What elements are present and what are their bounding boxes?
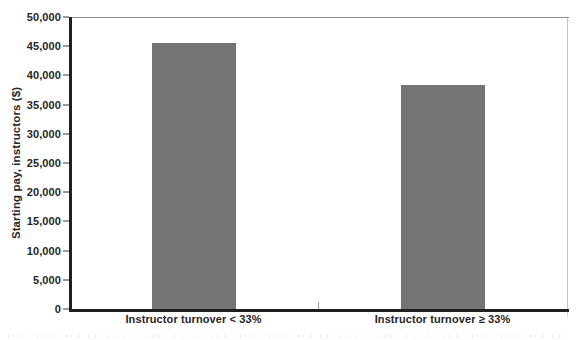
y-tick-label: 15,000 (0, 214, 61, 228)
y-tick (63, 16, 69, 18)
y-tick (63, 162, 69, 164)
y-tick (63, 308, 69, 310)
y-tick (63, 74, 69, 76)
x-category-label-1: Instructor turnover < 33% (125, 313, 261, 325)
plot-frame-top-line (69, 17, 569, 18)
x-axis-line (69, 309, 569, 312)
y-tick (63, 220, 69, 222)
y-tick-label: 30,000 (0, 127, 61, 141)
y-tick-label: 10,000 (0, 244, 61, 258)
y-tick (63, 191, 69, 193)
y-tick (63, 104, 69, 106)
bar-2 (401, 85, 485, 309)
bar-1 (152, 43, 236, 309)
y-tick-label: 40,000 (0, 68, 61, 82)
y-tick-label: 50,000 (0, 10, 61, 24)
y-tick-label: 5,000 (0, 273, 61, 287)
x-category-label-2: Instructor turnover ≥ 33% (375, 313, 511, 325)
y-tick-label: 20,000 (0, 185, 61, 199)
y-tick (63, 45, 69, 47)
y-tick (63, 279, 69, 281)
bar-chart-figure: Starting pay, instructors ($) 05,00010,0… (0, 0, 579, 340)
x-axis-right-tick (567, 312, 568, 317)
y-tick-label: 25,000 (0, 156, 61, 170)
plot-frame-right-line (567, 18, 568, 309)
y-tick (63, 250, 69, 252)
y-tick-label: 35,000 (0, 98, 61, 112)
y-tick-label: 0 (0, 302, 61, 316)
y-tick (63, 133, 69, 135)
cropped-caption-strip (8, 335, 568, 337)
category-divider-tick (318, 302, 319, 309)
y-axis-line (69, 17, 72, 312)
y-tick-label: 45,000 (0, 39, 61, 53)
